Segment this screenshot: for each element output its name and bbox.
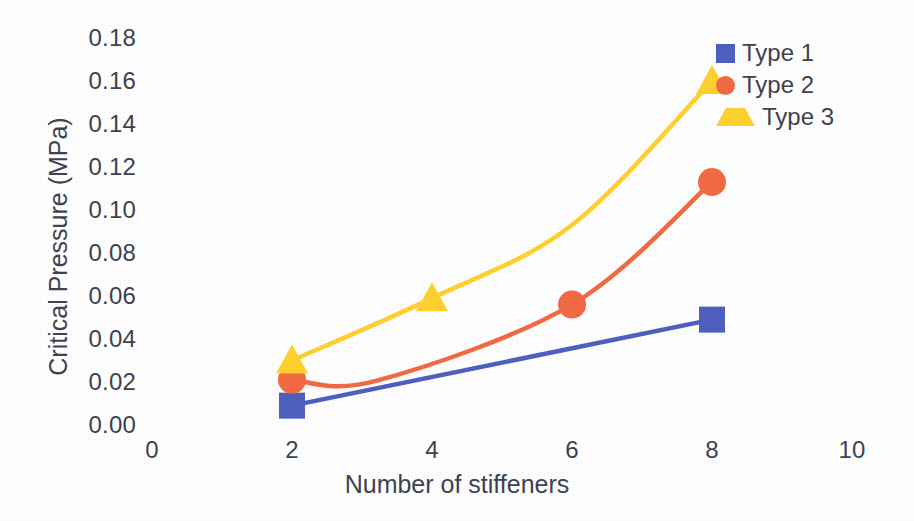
- circle-marker: [558, 291, 586, 319]
- square-marker: [716, 44, 735, 63]
- circle-marker: [716, 76, 735, 95]
- series-type-1: [279, 307, 725, 419]
- square-marker: [279, 393, 305, 419]
- triangle-marker: [716, 108, 755, 126]
- legend-item-label: Type 3: [762, 105, 834, 129]
- chart-legend: Type 1Type 2Type 3: [716, 40, 834, 130]
- series-line: [292, 182, 712, 386]
- square-marker: [699, 307, 725, 333]
- legend-item-type-3[interactable]: Type 3: [716, 104, 834, 130]
- series-type-3: [276, 65, 728, 374]
- triangle-marker: [416, 282, 448, 311]
- triangle-marker: [276, 345, 308, 374]
- series-line: [292, 81, 712, 361]
- circle-marker: [698, 168, 726, 196]
- legend-item-label: Type 2: [742, 73, 814, 97]
- series-type-2: [278, 168, 726, 394]
- legend-item-type-2[interactable]: Type 2: [716, 72, 834, 98]
- chart-figure: Critical Pressure (MPa) 0.180.160.140.12…: [0, 0, 914, 521]
- legend-item-type-1[interactable]: Type 1: [716, 40, 834, 66]
- legend-item-label: Type 1: [742, 41, 814, 65]
